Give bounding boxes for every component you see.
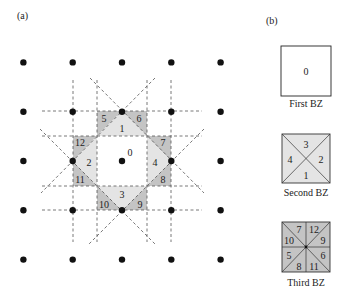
zone-label-5: 5: [102, 113, 107, 124]
lattice-point: [217, 109, 223, 115]
lattice-point: [70, 59, 76, 65]
first-bz-caption: First BZ: [289, 98, 323, 109]
third-bz-label-5: 5: [287, 250, 292, 261]
second-bz-label-1: 1: [304, 170, 309, 181]
lattice-point: [20, 207, 26, 213]
third-bz-label-11: 11: [309, 261, 319, 272]
lattice-point: [70, 256, 76, 262]
zone-label-8: 8: [161, 174, 166, 185]
panel-a-label: (a): [17, 10, 28, 22]
lattice-point: [70, 158, 76, 164]
third-bz-diagram: 7 12 9 6 11 8 5 10 Third BZ: [282, 222, 330, 288]
third-bz-label-7: 7: [297, 224, 302, 235]
lattice-point: [119, 109, 125, 115]
lattice-point: [217, 207, 223, 213]
zone-label-12: 12: [75, 137, 85, 148]
zone-label-6: 6: [137, 113, 142, 124]
zone-label-7: 7: [161, 137, 166, 148]
zone-label-11: 11: [75, 174, 85, 185]
lattice-point: [70, 109, 76, 115]
third-bz-label-6: 6: [321, 250, 326, 261]
zone-label-9: 9: [138, 199, 143, 210]
lattice-point: [168, 158, 174, 164]
lattice-point: [20, 158, 26, 164]
third-bz-label-9: 9: [321, 235, 326, 246]
brillouin-zone-figure: (a) 0123456789101112 (b): [0, 0, 349, 297]
lattice-point: [20, 109, 26, 115]
lattice-point: [119, 158, 125, 164]
zone-label-10: 10: [99, 199, 109, 210]
zone-label-0: 0: [128, 147, 133, 158]
third-bz-caption: Third BZ: [287, 277, 325, 288]
zone-label-2: 2: [87, 157, 92, 168]
second-bz-diagram: 3 2 1 4 Second BZ: [282, 134, 330, 198]
lattice-point: [70, 207, 76, 213]
lattice-point: [20, 256, 26, 262]
second-bz-label-4: 4: [288, 154, 293, 165]
lattice-point: [119, 207, 125, 213]
panel-b-label: (b): [266, 15, 278, 27]
lattice-point: [168, 256, 174, 262]
lattice-point: [217, 256, 223, 262]
first-bz-label-0: 0: [304, 66, 309, 77]
third-bz-label-8: 8: [297, 261, 302, 272]
lattice-point: [119, 59, 125, 65]
second-bz-label-3: 3: [304, 139, 309, 150]
third-bz-label-12: 12: [309, 224, 319, 235]
lattice-point: [217, 158, 223, 164]
zone-label-4: 4: [153, 157, 158, 168]
third-bz-label-10: 10: [284, 235, 294, 246]
lattice-point: [168, 109, 174, 115]
first-bz-diagram: 0 First BZ: [281, 46, 331, 109]
lattice-point: [217, 59, 223, 65]
second-bz-label-2: 2: [319, 154, 324, 165]
zone-label-3: 3: [120, 189, 125, 200]
zone-label-1: 1: [120, 123, 125, 134]
lattice-point: [168, 207, 174, 213]
reciprocal-lattice-points: [20, 59, 224, 263]
second-bz-caption: Second BZ: [284, 187, 329, 198]
lattice-point: [20, 59, 26, 65]
lattice-point: [119, 256, 125, 262]
lattice-point: [168, 59, 174, 65]
